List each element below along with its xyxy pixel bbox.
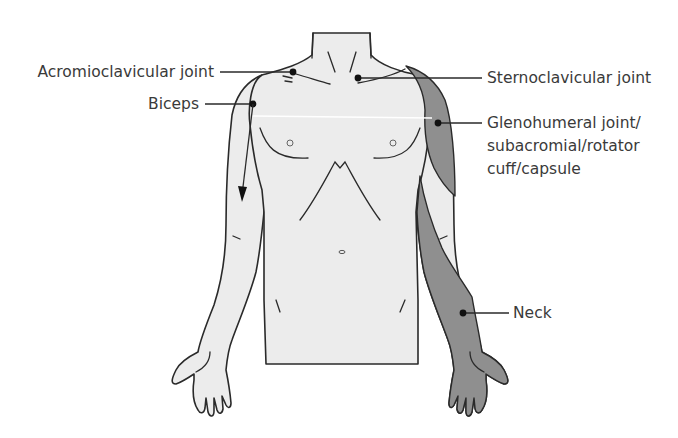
label-glenohumeral-line1: Glenohumeral joint/ [487, 114, 642, 132]
sternoclavicular-dot [355, 75, 362, 82]
label-acromioclavicular-joint: Acromioclavicular joint [37, 63, 214, 81]
label-neck: Neck [513, 304, 552, 322]
label-glenohumeral-line3: cuff/capsule [487, 160, 581, 178]
label-glenohumeral-line2: subacromial/rotator [487, 137, 640, 155]
glenohumeral-dot [435, 120, 442, 127]
acromioclavicular-dot [290, 69, 297, 76]
label-biceps: Biceps [148, 95, 199, 113]
neck-dot [460, 310, 467, 317]
shoulder-pain-referral-diagram: Acromioclavicular joint Biceps Sternocla… [0, 0, 678, 438]
torso [249, 33, 430, 364]
label-sternoclavicular-joint: Sternoclavicular joint [487, 69, 651, 87]
